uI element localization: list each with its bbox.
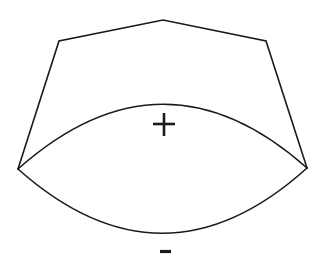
minus-sign-label: - <box>160 251 171 252</box>
upper-arc <box>18 104 307 169</box>
lens-diagram: + - <box>0 0 326 263</box>
polygon-outline <box>18 20 307 169</box>
plus-sign-label: + <box>153 113 175 136</box>
lower-arc <box>18 168 307 233</box>
